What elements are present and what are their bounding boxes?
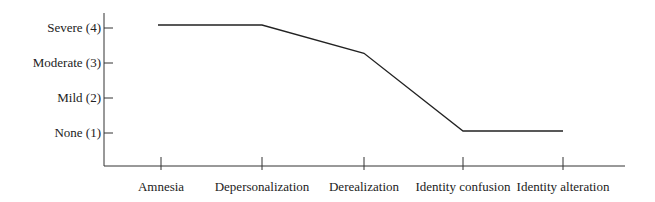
x-label-depersonalization: Depersonalization <box>215 179 310 194</box>
x-label-identity-confusion: Identity confusion <box>416 179 511 194</box>
severity-line <box>158 25 563 131</box>
x-label-amnesia: Amnesia <box>138 179 184 194</box>
y-label-none: None (1) <box>54 125 101 140</box>
y-tick-labels: Severe (4) Moderate (3) Mild (2) None (1… <box>33 20 101 140</box>
y-label-mild: Mild (2) <box>57 90 101 105</box>
y-ticks <box>104 28 113 133</box>
x-tick-labels: Amnesia Depersonalization Derealization … <box>138 179 610 194</box>
line-chart: Severe (4) Moderate (3) Mild (2) None (1… <box>0 0 655 202</box>
x-label-derealization: Derealization <box>329 179 400 194</box>
x-label-identity-alteration: Identity alteration <box>517 179 610 194</box>
y-label-moderate: Moderate (3) <box>33 55 101 70</box>
y-label-severe: Severe (4) <box>47 20 101 35</box>
x-ticks <box>161 157 563 170</box>
